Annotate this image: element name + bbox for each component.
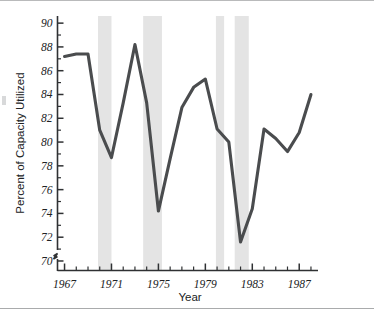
y-axis: 7072747678808284868890 <box>41 16 64 271</box>
y-axis-break-icon <box>54 254 58 260</box>
y-tick-label-88: 88 <box>41 41 53 53</box>
y-tick-marks <box>58 23 64 261</box>
y-tick-label-86: 86 <box>41 65 53 77</box>
y-tick-label-78: 78 <box>41 160 53 172</box>
y-tick-label-76: 76 <box>41 184 53 196</box>
x-tick-label-1979: 1979 <box>194 278 217 290</box>
x-tick-label-1975: 1975 <box>147 278 170 290</box>
x-axis-title: Year <box>178 291 201 303</box>
line-chart: 7072747678808284868890 19671971197519791… <box>0 0 374 308</box>
page-canvas: 7072747678808284868890 19671971197519791… <box>0 0 374 322</box>
y-axis-title: Percent of Capacity Utilized <box>14 72 26 213</box>
y-tick-labels: 7072747678808284868890 <box>41 17 53 267</box>
recession-band-4 <box>235 16 249 271</box>
y-tick-label-80: 80 <box>41 136 53 148</box>
x-tick-label-1971: 1971 <box>100 278 123 290</box>
y-tick-label-70: 70 <box>41 255 53 267</box>
y-tick-label-72: 72 <box>41 231 53 243</box>
x-tick-labels: 196719711975197919831987 <box>53 278 312 290</box>
y-tick-label-90: 90 <box>41 17 53 29</box>
x-tick-label-1983: 1983 <box>241 278 264 290</box>
x-tick-label-1987: 1987 <box>288 278 312 290</box>
chart-figure: 7072747678808284868890 19671971197519791… <box>0 0 374 308</box>
recession-band-3 <box>216 16 224 271</box>
x-tick-label-1967: 1967 <box>53 278 77 290</box>
x-axis: 196719711975197919831987 <box>53 264 318 290</box>
y-tick-label-82: 82 <box>41 112 53 124</box>
y-tick-label-84: 84 <box>41 88 53 100</box>
page-rule-bottom <box>0 308 374 309</box>
y-tick-label-74: 74 <box>41 207 53 219</box>
